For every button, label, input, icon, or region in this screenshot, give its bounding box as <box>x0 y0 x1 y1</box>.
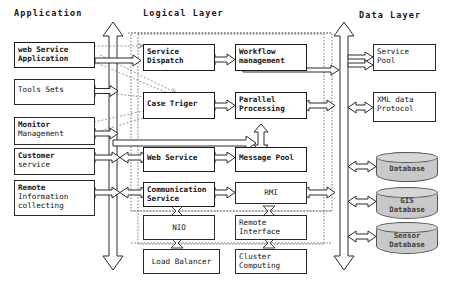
datastore-sensor-database[interactable]: Sensor Database <box>376 222 438 254</box>
node-customer-service[interactable]: Customer service <box>14 148 95 175</box>
node-rmi[interactable]: RMI <box>235 182 307 204</box>
layer-title-data: Data Layer <box>359 10 421 20</box>
node-workflow-management[interactable]: Workflow management <box>235 44 307 71</box>
architecture-diagram: Application Logical Layer Data Layer web… <box>0 0 452 288</box>
node-service-dispatch[interactable]: Service Dispatch <box>143 44 215 71</box>
layer-title-logical: Logical Layer <box>143 8 224 18</box>
datastore-database-label: Database <box>389 160 425 174</box>
node-monitor-management[interactable]: Monitor Management <box>14 117 95 145</box>
node-communication-service[interactable]: Communication Service <box>143 182 215 207</box>
node-web-service[interactable]: Web Service <box>143 147 215 172</box>
node-remote-information-collecting[interactable]: Remote Information collecting <box>14 180 95 216</box>
node-web-service-application[interactable]: web Service Application <box>14 42 95 68</box>
datastore-sensor-database-label: Sensor Database <box>389 227 425 249</box>
logical-internal-connectors <box>207 54 339 198</box>
node-message-pool[interactable]: Message Pool <box>235 147 307 172</box>
layer-title-application: Application <box>14 8 82 18</box>
node-nio[interactable]: NIO <box>143 215 215 240</box>
node-load-balancer[interactable]: Load Balancer <box>143 249 220 274</box>
node-case-triger[interactable]: Case Triger <box>143 92 215 119</box>
app-logical-connectors <box>87 55 149 198</box>
node-tools-sets[interactable]: Tools Sets <box>14 79 95 105</box>
data-layer-connectors <box>348 52 376 242</box>
datastore-gis-database-label: GIS Database <box>389 192 425 214</box>
datastore-database[interactable]: Database <box>376 152 438 182</box>
node-xml-data-protocol[interactable]: XML data Protocol <box>373 92 436 122</box>
node-remote-interface[interactable]: Remote Interface <box>235 215 307 240</box>
datastore-gis-database[interactable]: GIS Database <box>376 187 438 219</box>
node-service-pool[interactable]: Service Pool <box>373 44 436 71</box>
node-parallel-processing[interactable]: Parallel Processing <box>235 92 307 119</box>
node-cluster-computing[interactable]: Cluster Computing <box>235 249 307 274</box>
